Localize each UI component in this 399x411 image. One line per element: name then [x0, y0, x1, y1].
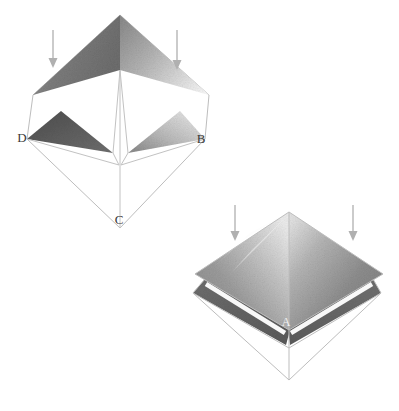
upper-pyramid-figure: D B C [17, 15, 209, 228]
lower-pyramid-figure: A [192, 205, 383, 380]
arrow-lower-left [231, 205, 240, 241]
vertex-label-b: B [197, 131, 206, 146]
arrow-lower-right [349, 205, 358, 241]
geometric-figure-canvas: D B C [0, 0, 399, 411]
vertex-label-c: C [115, 212, 124, 227]
upper-left-skirt-facet [27, 111, 113, 153]
arrow-upper-left [49, 30, 58, 68]
upper-central-spine [113, 70, 128, 228]
vertex-label-d: D [17, 130, 26, 145]
vertex-label-a: A [282, 315, 291, 329]
upper-right-skirt-facet [128, 111, 205, 153]
upper-left-facet [33, 15, 120, 95]
